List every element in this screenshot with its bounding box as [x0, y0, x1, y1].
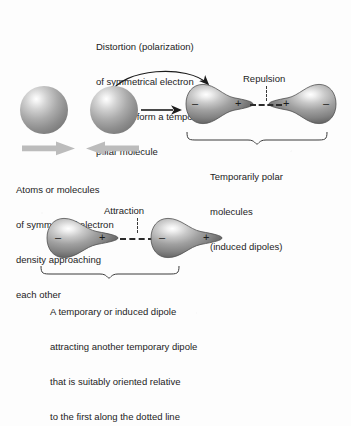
repulsion-leader-line: [266, 86, 267, 101]
dipole-top-right-positive: +: [283, 98, 289, 109]
attraction-leader-line: [137, 218, 138, 233]
brace-induced-dipole: [40, 265, 180, 279]
caption-bottom-line-1: A temporary or induced dipole: [50, 306, 197, 318]
caption-bottom-line-4: to the first along the dotted line: [50, 411, 197, 423]
caption-right-line-1: Temporarily polar: [210, 171, 283, 183]
caption-bottom: A temporary or induced dipole attracting…: [50, 283, 197, 426]
dipole-bottom-left-negative: –: [55, 232, 61, 243]
dipole-bottom-right: – +: [150, 216, 226, 260]
caption-top-line-1: Distortion (polarization): [96, 41, 213, 53]
attraction-dotted-line: [120, 238, 154, 240]
sphere-symmetrical-atom-2: [90, 86, 138, 134]
block-arrow-right-icon: [22, 141, 76, 156]
dipole-bottom-right-positive: +: [203, 232, 209, 243]
repulsion-dotted-line: [250, 104, 282, 106]
caption-left-line-1: Atoms or molecules: [16, 184, 114, 196]
dipole-top-right-negative: –: [323, 98, 329, 109]
label-repulsion: Repulsion: [243, 73, 285, 85]
brace-temporarily-polar: [186, 131, 328, 145]
dipole-bottom-left-positive: +: [99, 232, 105, 243]
dipole-bottom-right-negative: –: [159, 232, 165, 243]
dipole-bottom-left: – +: [46, 216, 122, 260]
label-attraction: Attraction: [104, 205, 144, 217]
dipole-top-left: – +: [185, 82, 257, 126]
sphere-symmetrical-atom-1: [20, 86, 68, 134]
block-arrow-left-icon: [86, 141, 140, 156]
caption-bottom-line-3: that is suitably oriented relative: [50, 376, 197, 388]
approach-arrow-icon: [140, 103, 184, 117]
dipole-top-left-negative: –: [192, 98, 198, 109]
caption-bottom-line-2: attracting another temporary dipole: [50, 341, 197, 353]
dipole-top-left-positive: +: [235, 98, 241, 109]
